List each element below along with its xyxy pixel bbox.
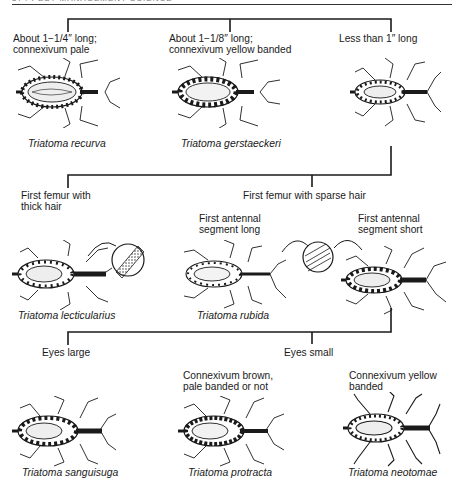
key-option-connexivum-brown: Connexivum brown, pale banded or not <box>183 370 273 392</box>
bracket-level2 <box>68 146 391 188</box>
key-option-connexivum-yellow: Connexivum yellow banded <box>349 370 437 392</box>
bug-illustration-protracta <box>174 396 289 468</box>
species-name-lecticularius: Triatoma lecticularius <box>18 310 115 321</box>
key-option-line: First femur with sparse hair <box>243 190 366 201</box>
key-option-line: connexivum yellow banded <box>169 44 291 55</box>
key-option-eyes-small: Eyes small <box>284 347 333 358</box>
key-option-line: First antennal <box>199 213 261 224</box>
key-option-antennal-short: First antennal segment short <box>358 213 423 235</box>
key-option-eyes-large: Eyes large <box>42 347 90 358</box>
species-name-sanguisuga: Triatoma sanguisuga <box>22 467 118 478</box>
key-option-line: Less than 1″ long <box>339 33 417 44</box>
key-option-line: Eyes small <box>284 347 333 358</box>
inset-thick-hair-femur <box>80 238 160 283</box>
key-option-sparse-hair: First femur with sparse hair <box>243 190 366 201</box>
key-option-less-than-1in: Less than 1″ long <box>339 33 417 44</box>
key-option-line: connexivum pale <box>13 44 97 55</box>
key-option-line: First antennal <box>358 213 423 224</box>
key-option-line: Connexivum brown, <box>183 370 273 381</box>
key-option-antennal-long: First antennal segment long <box>199 213 261 235</box>
key-option-line: About 1−1/4″ long; <box>13 33 97 44</box>
key-option-recurva: About 1−1/4″ long; connexivum pale <box>13 33 97 55</box>
bug-illustration-neotomae <box>340 392 450 468</box>
species-name-gerstaeckeri: Triatoma gerstaeckeri <box>181 138 281 149</box>
bug-illustration-gerstaeckeri <box>168 58 283 128</box>
key-option-line: pale banded or not <box>183 381 273 392</box>
key-option-line: Eyes large <box>42 347 90 358</box>
key-option-thick-hair: First femur with thick hair <box>21 190 91 212</box>
species-name-rubida: Triatoma rubida <box>197 310 269 321</box>
species-name-recurva: Triatoma recurva <box>28 138 106 149</box>
species-name-neotomae: Triatoma neotomae <box>348 467 437 478</box>
key-option-line: thick hair <box>21 201 91 212</box>
key-option-line: segment short <box>358 224 423 235</box>
bug-illustration-recurva <box>10 58 125 128</box>
bug-illustration-less-than-1in <box>345 58 445 128</box>
bug-illustration-sanguisuga <box>8 396 123 468</box>
callout-arrow-icon <box>334 240 362 250</box>
key-option-line: segment long <box>199 224 261 235</box>
bug-illustration-rubida <box>178 240 288 310</box>
callout-arrow-icon <box>88 243 116 256</box>
key-option-line: First femur with <box>21 190 91 201</box>
species-name-protracta: Triatoma protracta <box>188 467 272 478</box>
key-option-line: About 1−1/8″ long; <box>169 33 291 44</box>
identification-key-page: 574 PEST MANAGEMENT SCIENCE About 1−1/4″… <box>0 0 458 488</box>
inset-sparse-hair-femur <box>278 236 368 281</box>
key-option-line: Connexivum yellow <box>349 370 437 381</box>
key-option-line: banded <box>349 381 437 392</box>
key-option-gerstaeckeri: About 1−1/8″ long; connexivum yellow ban… <box>169 33 291 55</box>
